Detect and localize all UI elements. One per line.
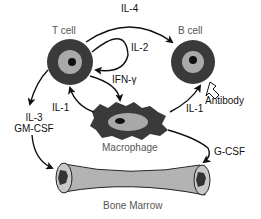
tcell-to-il3-arrow: [30, 70, 48, 104]
macrophage-icon: [90, 102, 168, 140]
ifn-gamma-label: IFN-γ: [112, 75, 136, 85]
b-cell-icon: [171, 40, 215, 84]
gm-csf-label: GM-CSF: [10, 124, 58, 134]
il1-left-label: IL-1: [52, 103, 69, 113]
t-cell-label: T cell: [52, 26, 76, 36]
il2-arrow: [92, 39, 128, 71]
diagram-canvas: [0, 0, 261, 219]
il2-label: IL-2: [131, 43, 148, 53]
bone-marrow-label: Bone Marrow: [103, 201, 162, 211]
macrophage-label: Macrophage: [102, 143, 158, 153]
bone-marrow-icon: [56, 163, 210, 195]
il3-gmcsf-arrow: [32, 135, 52, 168]
il3-label: IL-3: [14, 113, 54, 123]
b-cell-label: B cell: [178, 26, 202, 36]
il4-label: IL-4: [121, 4, 138, 14]
il1-left-arrow: [70, 88, 94, 112]
il1-right-label: IL-1: [186, 104, 203, 114]
t-cell-icon: [47, 39, 93, 85]
gcsf-arrow: [168, 130, 209, 162]
g-csf-label: G-CSF: [214, 147, 245, 157]
antibody-label: Antibody: [205, 96, 244, 106]
il4-arrow: [86, 27, 172, 42]
